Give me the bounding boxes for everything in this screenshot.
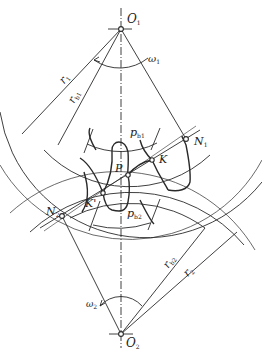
pb1-ext-right [151,128,160,150]
pb2-ext-right [148,199,160,230]
pb1-label: pb1 [130,127,145,139]
o2-label: O2 [126,337,140,350]
n1-marker [184,137,189,142]
rb1-line [58,29,121,145]
w2-label: ω2 [86,300,97,310]
pb1-dimension-arc [87,143,157,152]
gear1-base-circle [44,150,210,187]
o1-marker [119,27,124,32]
r2-line [121,232,237,334]
p-marker [126,173,130,177]
k-prime-marker [101,191,105,195]
pb2-dimension-arc [93,223,150,228]
o1-n1-line [121,29,186,139]
n1-label: N1 [194,136,207,148]
rb2-line [121,228,205,334]
n2-label: N2 [46,206,59,218]
pb2-label: pb2 [127,208,142,220]
o2-marker [119,332,124,337]
w1-arrow [94,57,100,62]
r1-line [22,29,121,134]
o1-label: O1 [127,13,141,26]
line-of-action [40,130,200,228]
diagram-drawing [0,0,262,353]
k-label: K [159,154,167,165]
n2-marker [60,214,65,219]
k-marker [150,158,154,162]
p-label: P [115,163,122,174]
w1-label: ω1 [148,54,160,65]
k-prime-label: K' [85,198,96,209]
gear-mesh-diagram: O1 ω1 r1 rb1 pb1 N1 P K K' N2 pb2 rb2 r2… [0,0,262,353]
